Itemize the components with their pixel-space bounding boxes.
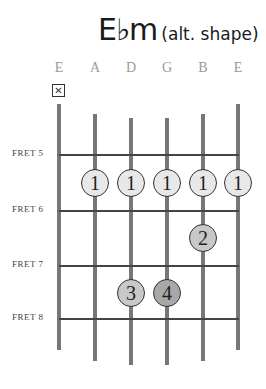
muted-string-icon: ✕	[52, 84, 65, 97]
finger-position-dot: 1	[189, 169, 217, 197]
finger-position-dot: 1	[224, 169, 252, 197]
fret-line	[59, 265, 239, 267]
finger-position-dot: 1	[81, 169, 109, 197]
finger-position-dot: 2	[189, 224, 217, 252]
fret-label: FRET 8	[12, 312, 44, 322]
string-label: B	[193, 60, 213, 76]
fret-label: FRET 6	[12, 204, 44, 214]
guitar-string	[93, 114, 97, 361]
fret-line	[59, 154, 239, 156]
string-label: E	[49, 60, 69, 76]
guitar-string	[236, 104, 240, 350]
string-label: D	[121, 60, 141, 76]
string-label: E	[228, 60, 248, 76]
chord-name: E♭m	[98, 12, 157, 47]
finger-position-dot: 4	[153, 279, 181, 307]
string-label: G	[157, 60, 177, 76]
finger-position-dot: 3	[117, 279, 145, 307]
fret-label: FRET 5	[12, 148, 44, 158]
fret-line	[59, 318, 239, 320]
chord-title: E♭m (alt. shape)	[98, 12, 259, 47]
finger-position-dot: 1	[153, 169, 181, 197]
string-label: A	[85, 60, 105, 76]
guitar-string	[57, 104, 61, 350]
chord-variant-note: (alt. shape)	[161, 24, 258, 44]
finger-position-dot: 1	[117, 169, 145, 197]
fret-label: FRET 7	[12, 259, 44, 269]
fret-line	[59, 210, 239, 212]
